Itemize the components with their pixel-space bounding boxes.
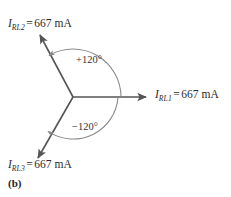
phasor-label-irl1: IRL1=667 mA — [155, 88, 219, 104]
figure-caption: (b) — [8, 177, 21, 189]
phasor-vector-irl3 — [38, 97, 73, 158]
phasor-subscript-irl1: RL1 — [159, 94, 172, 103]
phasor-value-irl2: 667 mA — [34, 17, 71, 29]
phasor-subscript-irl2: RL2 — [12, 23, 25, 32]
phasor-vector-irl2 — [40, 35, 73, 97]
phasor-label-irl2: IRL2=667 mA — [8, 17, 72, 33]
angle-label-positive: +120° — [76, 54, 102, 65]
angle-arc-negative — [48, 97, 118, 139]
angle-label-negative: −120° — [72, 121, 98, 132]
phasor-label-irl3: IRL3=667 mA — [8, 158, 72, 174]
phasor-diagram-figure: IRL2=667 mA IRL1=667 mA IRL3=667 mA +120… — [0, 0, 231, 197]
phasor-value-irl3: 667 mA — [34, 158, 71, 170]
phasor-equals-irl2: = — [25, 17, 35, 29]
phasor-value-irl1: 667 mA — [181, 88, 218, 100]
phasor-equals-irl3: = — [25, 158, 35, 170]
phasor-subscript-irl3: RL3 — [12, 164, 25, 173]
phasor-equals-irl1: = — [172, 88, 182, 100]
